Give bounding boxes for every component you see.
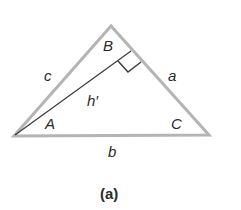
side-label-c: c: [44, 68, 52, 83]
figure-caption: (a): [100, 186, 118, 201]
vertex-label-a: A: [45, 116, 55, 131]
side-label-a: a: [168, 68, 176, 83]
altitude-label: h′: [87, 93, 98, 108]
vertex-label-c: C: [171, 116, 182, 131]
vertex-label-b: B: [103, 38, 113, 53]
side-label-b: b: [108, 144, 116, 159]
altitude-line: [15, 51, 131, 135]
right-angle-marker: [118, 61, 141, 72]
triangle-figure: B A C c a b h′ (a): [0, 0, 241, 210]
triangle-diagram: [0, 0, 241, 210]
